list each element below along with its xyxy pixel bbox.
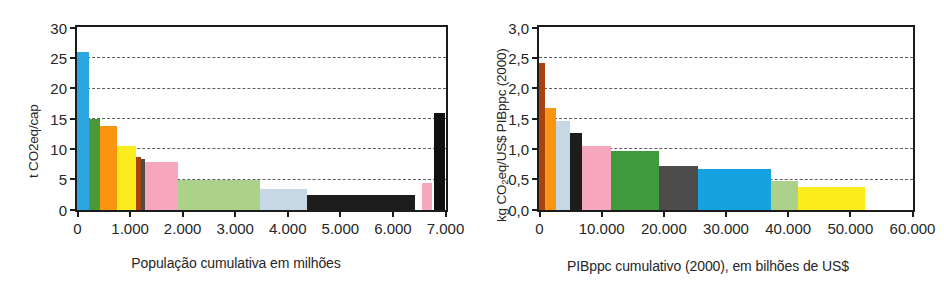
x-tick-mark — [663, 212, 665, 217]
x-tick-mark — [392, 212, 394, 217]
y-axis-label-right-suffix: eq/US$ PIBppc (2000) — [494, 48, 509, 179]
y-tick-mark — [70, 209, 75, 211]
x-tick-mark — [725, 212, 727, 217]
y-tick-label: 1,5 — [508, 110, 529, 127]
y-tick-mark — [532, 27, 537, 29]
x-tick-label: 2.000 — [164, 220, 202, 237]
bar — [307, 195, 415, 210]
y-tick-mark — [532, 87, 537, 89]
y-tick-label: 0,0 — [508, 201, 529, 218]
x-tick-label: 1.000 — [111, 220, 149, 237]
y-axis-label-right-prefix: kg CO — [494, 185, 509, 222]
x-tick-label: 10.000 — [579, 220, 625, 237]
x-tick-label: 5.000 — [322, 220, 360, 237]
y-tick-mark — [70, 87, 75, 89]
y-tick-label: 10 — [50, 140, 67, 157]
bar — [422, 183, 432, 210]
gridline — [77, 118, 446, 119]
gridline — [539, 118, 913, 119]
y-tick-mark — [70, 27, 75, 29]
x-tick-mark — [912, 212, 914, 217]
bar — [117, 146, 136, 210]
bar — [570, 133, 582, 210]
x-tick-mark — [182, 212, 184, 217]
y-tick-label: 2,5 — [508, 49, 529, 66]
bar — [89, 119, 100, 210]
bar — [100, 126, 117, 210]
bar — [611, 151, 659, 210]
x-tick-mark — [445, 212, 447, 217]
y-tick-label: 2,0 — [508, 80, 529, 97]
y-tick-label: 1,0 — [508, 140, 529, 157]
bar — [582, 146, 611, 210]
chart-panel-population: t CO2eq/cap 051015202530 01.0002.0003.00… — [0, 0, 472, 293]
x-tick-mark — [849, 212, 851, 217]
chart-panel-gdp: kg CO2eq/US$ PIBppc (2000) 0,00,51,01,52… — [472, 0, 944, 293]
x-tick-label: 0 — [73, 220, 81, 237]
y-tick-mark — [532, 209, 537, 211]
x-tick-label: 0 — [535, 220, 543, 237]
y-tick-mark — [70, 57, 75, 59]
x-tick-mark — [129, 212, 131, 217]
y-tick-label: 0,5 — [508, 171, 529, 188]
bar-series-left — [77, 27, 446, 210]
y-tick-label: 3,0 — [508, 19, 529, 36]
x-tick-label: 4.000 — [269, 220, 307, 237]
bar — [698, 169, 771, 210]
y-tick-mark — [532, 148, 537, 150]
bar — [659, 166, 698, 210]
x-tick-label: 40.000 — [765, 220, 811, 237]
x-tick-mark — [339, 212, 341, 217]
x-tick-label: 60.000 — [890, 220, 936, 237]
x-tick-mark — [601, 212, 603, 217]
bar — [178, 180, 259, 210]
figure-root: t CO2eq/cap 051015202530 01.0002.0003.00… — [0, 0, 944, 293]
bar — [556, 121, 570, 210]
y-tick-mark — [70, 148, 75, 150]
x-tick-mark — [77, 212, 79, 217]
bar — [434, 113, 445, 210]
gridline — [539, 57, 913, 58]
y-axis-label-right: kg CO2eq/US$ PIBppc (2000) — [494, 48, 510, 222]
bar-series-right — [539, 27, 913, 210]
x-tick-label: 7.000 — [427, 220, 465, 237]
x-tick-mark — [287, 212, 289, 217]
bar — [145, 162, 178, 210]
bar — [771, 181, 798, 210]
y-tick-mark — [532, 118, 537, 120]
plot-area-left — [75, 25, 448, 212]
y-tick-mark — [532, 57, 537, 59]
bar — [260, 189, 307, 210]
x-tick-mark — [539, 212, 541, 217]
x-tick-label: 30.000 — [703, 220, 749, 237]
y-tick-label: 20 — [50, 80, 67, 97]
x-axis-label-right: PIBppc cumulativo (2000), em bilhões de … — [472, 258, 944, 274]
bar — [77, 52, 89, 210]
plot-area-right — [537, 25, 915, 212]
y-tick-label: 30 — [50, 19, 67, 36]
bar — [545, 108, 556, 210]
y-axis-label-left: t CO2eq/cap — [26, 104, 41, 178]
y-tick-label: 0 — [59, 201, 67, 218]
y-tick-label: 25 — [50, 49, 67, 66]
y-tick-label: 15 — [50, 110, 67, 127]
x-tick-mark — [234, 212, 236, 217]
gridline — [77, 57, 446, 58]
gridline — [539, 88, 913, 89]
x-axis-label-left: População cumulativa em milhões — [0, 255, 472, 271]
x-tick-mark — [787, 212, 789, 217]
x-tick-label: 20.000 — [641, 220, 687, 237]
x-tick-label: 50.000 — [827, 220, 873, 237]
y-tick-mark — [70, 118, 75, 120]
y-tick-mark — [532, 178, 537, 180]
y-tick-label: 5 — [59, 171, 67, 188]
x-tick-label: 3.000 — [216, 220, 254, 237]
y-tick-mark — [70, 178, 75, 180]
bar — [798, 187, 865, 210]
gridline — [77, 88, 446, 89]
x-tick-label: 6.000 — [374, 220, 412, 237]
